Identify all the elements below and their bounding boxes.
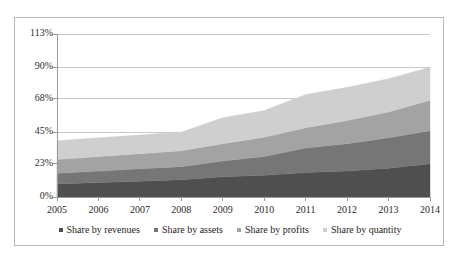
x-tick-label-2011: 2011: [286, 204, 326, 215]
y-tick-label-68: 68%: [21, 92, 53, 103]
chart-figure: 113% 90% 68% 45% 23% 0% 2005 2006 2007 2…: [0, 0, 457, 255]
legend-item-profits: Share by profits: [237, 224, 309, 235]
legend-label-assets: Share by assets: [162, 224, 223, 235]
x-tick-label-2005: 2005: [37, 204, 77, 215]
y-tick-label-23: 23%: [21, 157, 53, 168]
legend-item-quantity: Share by quantity: [323, 224, 402, 235]
legend-item-assets: Share by assets: [154, 224, 223, 235]
legend-swatch-icon-quantity: [323, 228, 327, 232]
legend-label-revenues: Share by revenues: [67, 224, 140, 235]
x-tick-label-2009: 2009: [203, 204, 243, 215]
legend-swatch-icon-profits: [237, 228, 241, 232]
plot-area: 113% 90% 68% 45% 23% 0% 2005 2006 2007 2…: [15, 18, 443, 245]
y-tick-label-0: 0%: [21, 190, 53, 201]
x-tick-label-2006: 2006: [78, 204, 118, 215]
x-tick-label-2013: 2013: [369, 204, 409, 215]
chart-frame: 113% 90% 68% 45% 23% 0% 2005 2006 2007 2…: [14, 17, 444, 246]
x-tick-label-2010: 2010: [244, 204, 284, 215]
x-tick-label-2008: 2008: [161, 204, 201, 215]
x-tick-label-2007: 2007: [120, 204, 160, 215]
legend-label-profits: Share by profits: [245, 224, 309, 235]
y-tick-label-90: 90%: [21, 60, 53, 71]
y-tick-label-45: 45%: [21, 125, 53, 136]
x-tick-label-2012: 2012: [327, 204, 367, 215]
legend-swatch-icon-revenues: [59, 228, 63, 232]
legend-label-quantity: Share by quantity: [331, 224, 402, 235]
y-tick-label-113: 113%: [21, 27, 53, 38]
x-tick-label-2014: 2014: [410, 204, 450, 215]
legend-swatch-icon-assets: [154, 228, 158, 232]
legend-item-revenues: Share by revenues: [59, 224, 140, 235]
chart-legend: Share by revenues Share by assets Share …: [15, 224, 445, 235]
